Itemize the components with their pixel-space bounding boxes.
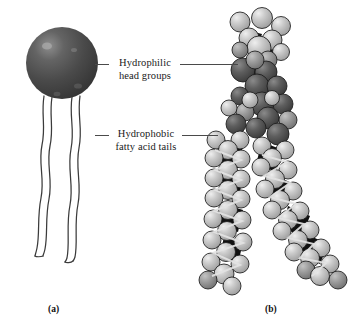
backbone-atom <box>242 92 258 108</box>
label-hydrophilic-line2: head groups <box>110 70 180 83</box>
hydrophilic-head-sphere <box>26 27 98 99</box>
label-hydrophilic-head-groups: Hydrophilic head groups <box>110 57 180 82</box>
leader-hydrophilic-left <box>95 64 109 65</box>
leader-hydrophilic-right <box>180 64 238 65</box>
space-filling-model <box>199 8 347 296</box>
label-hydrophobic-line2: fatty acid tails <box>108 141 184 154</box>
backbone-atom <box>226 114 246 134</box>
phospholipid-figure: Hydrophilic head groups Hydrophobic fatt… <box>0 0 361 333</box>
fatty-acid-tail-right <box>65 96 80 263</box>
tail-chain-kinked <box>252 137 347 289</box>
fatty-acid-tail-left <box>35 96 52 257</box>
label-hydrophobic-fatty-acid-tails: Hydrophobic fatty acid tails <box>108 128 184 153</box>
backbone-atom <box>246 118 266 138</box>
caption-panel-a: (a) <box>48 304 59 314</box>
caption-panel-b: (b) <box>265 304 277 314</box>
leader-hydrophobic-right <box>182 135 218 136</box>
leader-hydrophobic-left <box>95 135 109 136</box>
figure-artwork <box>0 0 361 333</box>
backbone-atom <box>221 100 237 116</box>
backbone-atom <box>265 91 280 106</box>
head-atom <box>252 8 273 29</box>
head-atom <box>232 42 248 58</box>
backbone-atom <box>246 51 264 69</box>
label-hydrophilic-line1: Hydrophilic <box>110 57 180 70</box>
label-hydrophobic-line1: Hydrophobic <box>108 128 184 141</box>
